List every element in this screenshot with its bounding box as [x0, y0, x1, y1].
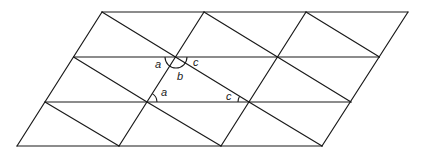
angle-label-top-b: b [177, 70, 183, 82]
angle-arc-bottom-c [238, 96, 240, 102]
diagonal [204, 12, 278, 57]
slant-line-2 [221, 12, 306, 146]
diagonal [278, 57, 352, 102]
diagonal [249, 102, 322, 146]
diagonal [147, 102, 221, 146]
diagonal [306, 12, 380, 57]
tessellation-diagram: a b c a c [0, 0, 421, 157]
diagonal [176, 57, 250, 102]
diagonal [102, 12, 176, 57]
slant-line-3 [322, 12, 408, 146]
angle-label-top-a: a [155, 58, 161, 70]
diagram-svg: a b c a c [0, 0, 421, 157]
slant-line-0 [17, 12, 102, 146]
diagonal-lines [45, 12, 380, 146]
diagonal [74, 57, 148, 102]
diagonal [45, 102, 119, 146]
slant-line-1 [119, 12, 204, 146]
angle-arc-bottom-a [152, 94, 157, 102]
angle-label-bottom-c: c [226, 90, 232, 102]
angle-label-top-c: c [193, 56, 199, 68]
angle-label-bottom-a: a [161, 86, 167, 98]
